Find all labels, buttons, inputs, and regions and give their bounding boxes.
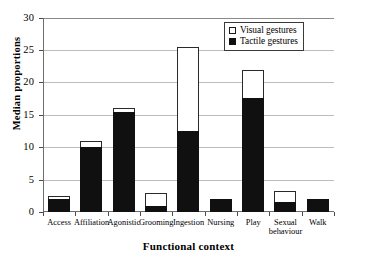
bar-agonistic	[113, 108, 135, 212]
x-tick-mark-7	[269, 212, 270, 216]
bar-segment-tactile-gestures	[145, 206, 167, 212]
legend-item-tactile-gestures: Tactile gestures	[229, 36, 298, 47]
x-tick-mark-6	[237, 212, 238, 216]
bar-segment-tactile-gestures	[177, 131, 199, 212]
bar-slot	[108, 18, 140, 212]
bar-walk	[307, 199, 329, 212]
bar-ingestion	[177, 47, 199, 212]
x-category-label-line: behaviour	[263, 227, 307, 236]
chart-figure: Median proportions 30 25 20 15 10 5 0 Ac…	[0, 0, 366, 268]
x-tick-mark-0	[43, 212, 44, 216]
x-category-label-line: Sexual	[274, 218, 297, 227]
y-tick-label-10: 10	[12, 142, 34, 152]
bar-segment-tactile-gestures	[48, 199, 70, 212]
bar-segment-visual-gestures	[145, 193, 167, 206]
bar-segment-tactile-gestures	[210, 199, 232, 212]
x-category-label-line: Play	[246, 218, 261, 227]
x-category-label-line: Walk	[309, 218, 326, 227]
x-tick-mark-3	[140, 212, 141, 216]
bar-sexual-behaviour	[274, 191, 296, 212]
x-category-label-walk: Walk	[296, 218, 340, 227]
x-axis-title: Functional context	[43, 240, 334, 252]
bar-segment-tactile-gestures	[242, 98, 264, 212]
bar-segment-tactile-gestures	[80, 147, 102, 212]
legend-item-visual-gestures: Visual gestures	[229, 25, 298, 36]
bar-nursing	[210, 199, 232, 212]
chart-legend: Visual gestures Tactile gestures	[224, 22, 304, 51]
bar-slot	[43, 18, 75, 212]
y-tick-label-15: 15	[12, 110, 34, 120]
legend-swatch-open-square-icon	[229, 27, 236, 34]
bar-grooming	[145, 193, 167, 212]
bar-play	[242, 70, 264, 212]
x-tick-mark-5	[205, 212, 206, 216]
legend-label-tactile-gestures: Tactile gestures	[240, 36, 298, 47]
bar-slot	[140, 18, 172, 212]
bar-affiliation	[80, 141, 102, 212]
bar-segment-tactile-gestures	[307, 199, 329, 212]
bar-access	[48, 196, 70, 212]
x-tick-mark-8	[302, 212, 303, 216]
bar-slot	[302, 18, 334, 212]
legend-label-visual-gestures: Visual gestures	[240, 25, 297, 36]
bar-segment-visual-gestures	[274, 191, 296, 202]
x-tick-mark-1	[75, 212, 76, 216]
x-tick-mark-4	[172, 212, 173, 216]
bar-slot	[172, 18, 204, 212]
y-tick-label-5: 5	[12, 175, 34, 185]
x-tick-mark-2	[108, 212, 109, 216]
bar-segment-tactile-gestures	[113, 112, 135, 212]
y-tick-label-0: 0	[12, 207, 34, 217]
bar-segment-tactile-gestures	[274, 202, 296, 212]
x-tick-mark-9	[334, 212, 335, 216]
bar-segment-visual-gestures	[177, 47, 199, 131]
bar-segment-visual-gestures	[242, 70, 264, 98]
x-category-label-line: Access	[47, 218, 71, 227]
y-tick-label-30: 30	[12, 13, 34, 23]
y-tick-label-25: 25	[12, 45, 34, 55]
y-tick-label-20: 20	[12, 77, 34, 87]
legend-swatch-filled-square-icon	[229, 38, 236, 45]
bar-slot	[75, 18, 107, 212]
